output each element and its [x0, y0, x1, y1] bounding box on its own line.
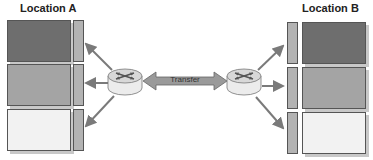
transfer-label: Transfer	[156, 75, 214, 84]
router-icon	[227, 69, 261, 95]
router-icon	[108, 69, 142, 95]
